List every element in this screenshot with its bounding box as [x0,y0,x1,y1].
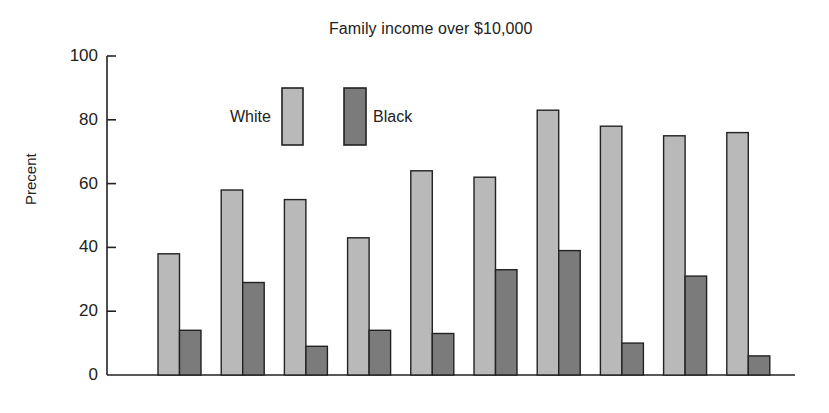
bar-white-3 [284,200,306,375]
bar-white-7 [537,110,559,375]
bar-white-8 [600,126,622,375]
legend-swatch-black [344,88,366,145]
bar-black-9 [685,276,707,375]
bar-black-1 [180,330,202,375]
plot-area [0,0,829,413]
legend [282,88,366,145]
bar-black-3 [306,346,328,375]
bar-white-1 [158,254,180,375]
bar-white-4 [348,238,370,375]
bars [158,110,770,375]
bar-chart: Family income over $10,000 Precent 0 20 … [0,0,829,413]
bar-black-8 [622,343,644,375]
bar-white-2 [221,190,243,375]
bar-white-6 [474,177,496,375]
bar-black-4 [369,330,391,375]
bar-black-10 [748,356,770,375]
bar-black-5 [432,334,454,376]
bar-black-2 [243,283,265,376]
bar-white-5 [411,171,433,375]
bar-black-7 [559,251,581,375]
legend-swatch-white [282,88,303,145]
bar-white-9 [664,136,686,375]
bar-black-6 [496,270,518,375]
bar-white-10 [727,133,749,375]
